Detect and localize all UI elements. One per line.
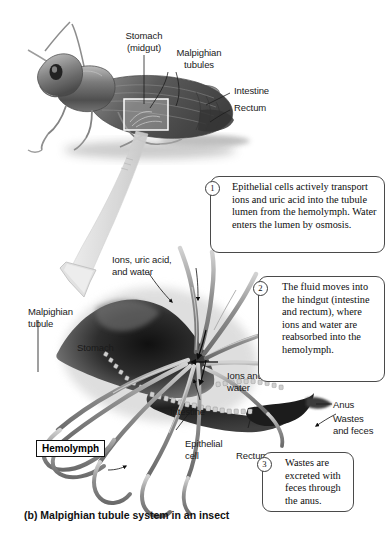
label-malpighian-tubule: Malpighian tubule [28, 306, 73, 329]
callout-step-2: The fluid moves into the hindgut (intest… [258, 276, 385, 382]
label-ions-uric-acid-water: Ions, uric acid, and water [112, 254, 172, 277]
callout-step-1-number: 1 [205, 181, 220, 196]
callout-step-2-number: 2 [253, 281, 268, 296]
callout-step-3: Wastes are excreted with feces through t… [262, 452, 354, 512]
label-hemolymph: Hemolymph [36, 440, 105, 457]
figure-panel: Stomach (midgut) Malpighian tubules Inte… [0, 0, 389, 548]
label-intestine-detail: Intestine [170, 406, 205, 418]
callout-step-1: Epithelial cells actively transport ions… [210, 176, 385, 253]
label-stomach: Stomach [77, 342, 114, 354]
callout-step-3-number: 3 [257, 457, 272, 472]
callout-step-2-text: The fluid moves into the hindgut (intest… [259, 277, 384, 361]
label-malpighian-tubules: Malpighian tubules [168, 47, 230, 70]
label-epithelial-cell: Epithelial cell [185, 438, 223, 461]
figure-caption: (b) Malpighian tubule system in an insec… [24, 509, 229, 521]
callout-step-3-text: Wastes are excreted with feces through t… [263, 453, 353, 511]
callout-step-1-text: Epithelial cells actively transport ions… [211, 177, 384, 235]
label-anus: Anus [333, 399, 354, 411]
label-wastes-and-feces: Wastes and feces [333, 413, 373, 436]
label-intestine-insect: Intestine [234, 85, 269, 97]
label-rectum-insect: Rectum [234, 102, 266, 114]
